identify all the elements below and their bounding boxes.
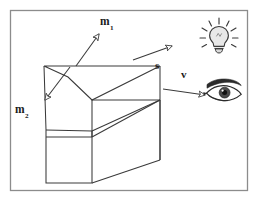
box-left-slope	[44, 66, 46, 130]
label-m2: m2	[15, 104, 28, 118]
box-interior-diagonal	[92, 100, 160, 137]
label-m1-subscript: 1	[110, 24, 114, 32]
box-group	[44, 66, 160, 183]
figure-container: m1 m2 s v	[0, 0, 258, 202]
label-m2-base: m	[15, 103, 25, 115]
box-right-face	[92, 100, 160, 131]
label-s: s	[155, 60, 159, 71]
m1-normal-vector	[76, 34, 99, 66]
diagram-canvas	[0, 0, 258, 202]
light-bulb-icon	[200, 18, 238, 53]
label-m1: m1	[100, 16, 113, 30]
box-front-top-edge	[46, 130, 92, 131]
label-v: v	[181, 69, 187, 80]
box-right-face-bottom	[92, 160, 160, 183]
s-light-vector	[133, 46, 172, 60]
eye-icon	[203, 79, 241, 101]
vectors-group	[45, 34, 205, 100]
label-m1-base: m	[100, 15, 110, 27]
box-lid-flap	[44, 66, 160, 100]
box-front-face	[46, 130, 92, 183]
v-view-vector	[163, 89, 205, 95]
label-m2-subscript: 2	[25, 112, 29, 120]
